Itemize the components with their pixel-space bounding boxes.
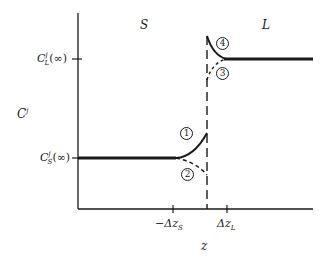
y-axis-label-main: C: [17, 107, 26, 121]
x-axis-label: z: [201, 240, 207, 252]
tick-sub: L: [231, 224, 236, 232]
tick-sup: j: [48, 150, 50, 158]
y-tick-label-cl: CjL(∞): [37, 52, 67, 67]
curve-marker-2: 2: [181, 168, 194, 181]
solid-phase-label: S: [140, 19, 148, 31]
tick-text: −Δz: [155, 217, 178, 230]
curve-marker-4: 4: [216, 37, 229, 50]
tick-suffix: (∞): [52, 151, 70, 164]
y-axis-label: Cj: [17, 108, 28, 120]
tick-text: Δz: [217, 217, 231, 230]
tick-suffix: (∞): [49, 52, 67, 65]
tick-sub: S: [178, 224, 183, 232]
x-tick-label-minus-dzs: −ΔzS: [155, 218, 183, 232]
y-tick-label-cs: CjS(∞): [40, 151, 70, 166]
curve-marker-1: 1: [180, 127, 193, 140]
y-axis-label-sup: j: [26, 107, 28, 115]
liquid-phase-label: L: [262, 19, 270, 31]
tick-sup: j: [45, 51, 47, 59]
x-tick-label-dzl: ΔzL: [217, 218, 235, 232]
concentration-profile-diagram: S L Cj CjL(∞) CjS(∞) −ΔzS ΔzL z 1 2 3 4: [0, 0, 331, 260]
curve-marker-3: 3: [216, 67, 229, 80]
